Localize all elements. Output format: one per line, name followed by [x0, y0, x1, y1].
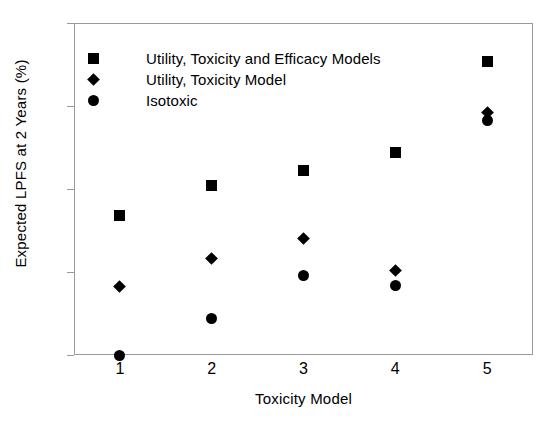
legend-square-icon [88, 53, 99, 64]
y-tick-mark [67, 272, 74, 273]
data-point-circle [482, 115, 493, 126]
legend-circle-icon [88, 95, 99, 106]
data-point-square [482, 56, 493, 67]
x-tick-label: 3 [289, 360, 319, 378]
y-axis-title: Expected LPFS at 2 Years (%) [12, 0, 29, 334]
legend-item-label: Utility, Toxicity and Efficacy Models [146, 48, 381, 69]
data-point-square [298, 165, 309, 176]
scatter-chart-figure: Expected LPFS at 2 Years (%) 4045505560 … [0, 0, 558, 421]
x-tick-label: 2 [197, 360, 227, 378]
data-point-square [206, 180, 217, 191]
x-tick-label: 5 [472, 360, 502, 378]
x-tick-label: 1 [105, 360, 135, 378]
legend-item-label: Utility, Toxicity Model [146, 69, 286, 90]
data-point-circle [298, 270, 309, 281]
data-point-circle [114, 350, 125, 361]
data-point-square [114, 210, 125, 221]
data-point-circle [390, 280, 401, 291]
y-tick-mark [67, 23, 74, 24]
data-point-square [390, 147, 401, 158]
x-tick-label: 4 [380, 360, 410, 378]
plot-area [74, 23, 533, 355]
y-tick-mark [67, 189, 74, 190]
y-tick-mark [67, 355, 74, 356]
y-tick-mark [67, 106, 74, 107]
legend-item-label: Isotoxic [146, 90, 198, 111]
x-axis-title: Toxicity Model [74, 390, 533, 407]
